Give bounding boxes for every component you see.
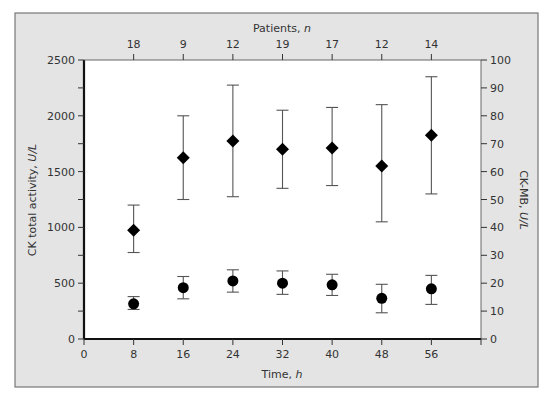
left-tick-label: 2000 [47, 110, 75, 123]
patients-count-label: 19 [276, 38, 290, 51]
right-tick-label: 40 [490, 221, 504, 234]
patients-count-label: 17 [325, 38, 339, 51]
right-tick-label: 30 [490, 249, 504, 262]
x-axis-title: Time, h [261, 368, 303, 381]
right-tick-label: 10 [490, 305, 504, 318]
left-tick-label: 1000 [47, 221, 75, 234]
right-tick-label: 100 [490, 54, 511, 67]
chart: 05001000150020002500 0102030405060708090… [0, 0, 555, 397]
bottom-tick-label: 48 [375, 348, 389, 361]
right-tick-label: 80 [490, 110, 504, 123]
patients-count-label: 12 [226, 38, 240, 51]
bottom-tick-label: 8 [130, 348, 137, 361]
circle-marker [277, 278, 288, 289]
right-tick-label: 60 [490, 166, 504, 179]
patients-count-label: 14 [424, 38, 438, 51]
right-tick-label: 90 [490, 82, 504, 95]
top-axis-title: Patients, n [253, 22, 311, 35]
patients-count-label: 9 [180, 38, 187, 51]
bottom-tick-label: 0 [81, 348, 88, 361]
circle-marker [227, 275, 238, 286]
left-tick-label: 2500 [47, 54, 75, 67]
right-tick-label: 70 [490, 138, 504, 151]
circle-marker [426, 283, 437, 294]
bottom-tick-label: 56 [424, 348, 438, 361]
patients-count-label: 12 [375, 38, 389, 51]
right-y-axis-title: CK-MB, U/L [517, 170, 530, 230]
plot-area [84, 60, 481, 339]
patients-count-label: 18 [127, 38, 141, 51]
circle-marker [178, 282, 189, 293]
left-y-axis-title: CK total activity, U/L [26, 144, 39, 256]
left-tick-label: 0 [68, 333, 75, 346]
right-tick-label: 50 [490, 194, 504, 207]
right-tick-label: 0 [490, 333, 497, 346]
circle-marker [376, 293, 387, 304]
circle-marker [128, 298, 139, 309]
bottom-tick-label: 16 [176, 348, 190, 361]
circle-marker [327, 279, 338, 290]
left-tick-label: 500 [54, 277, 75, 290]
bottom-tick-label: 24 [226, 348, 240, 361]
right-tick-label: 20 [490, 277, 504, 290]
bottom-tick-label: 32 [276, 348, 290, 361]
bottom-tick-label: 40 [325, 348, 339, 361]
left-tick-label: 1500 [47, 166, 75, 179]
